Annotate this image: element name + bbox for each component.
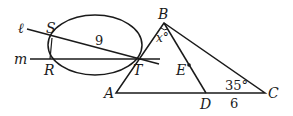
label-line-m: m [14,51,27,67]
label-s: S [46,20,56,36]
label-a: A [102,85,114,101]
label-x-angle: x° [156,31,169,45]
label-d: D [199,96,211,112]
label-r: R [43,62,55,78]
label-c: C [268,85,279,101]
geometry-diagram: ℓ m S R T 9 B x° E A D 35° 6 C [0,0,293,116]
label-seg-6: 6 [230,96,238,111]
label-angle-c: 35° [225,78,248,93]
label-line-l: ℓ [18,20,24,36]
segment-bd [164,23,206,93]
label-seg-9: 9 [95,33,103,48]
label-t: T [133,62,144,78]
label-b: B [157,6,168,22]
label-e: E [175,62,186,78]
point-e [187,63,191,67]
